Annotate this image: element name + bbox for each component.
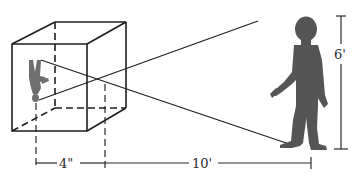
person-silhouette [270,17,328,151]
box-front-face [12,44,87,131]
height-label: 6' [334,47,346,62]
pinhole-camera-diagram: 6' 4" 10' [0,0,357,185]
light-rays [39,21,292,145]
ray-foot [41,60,292,145]
image-distance-label: 4" [59,156,73,171]
inverted-image-silhouette [29,60,49,102]
height-dimension [334,16,348,149]
object-distance-label: 10' [192,156,212,171]
box-edge-top-left [12,22,55,44]
box-edge-bottom-right [87,108,126,131]
ray-head [39,21,258,100]
box-edge-top-right [87,22,126,44]
distance-dimensions [36,84,311,170]
